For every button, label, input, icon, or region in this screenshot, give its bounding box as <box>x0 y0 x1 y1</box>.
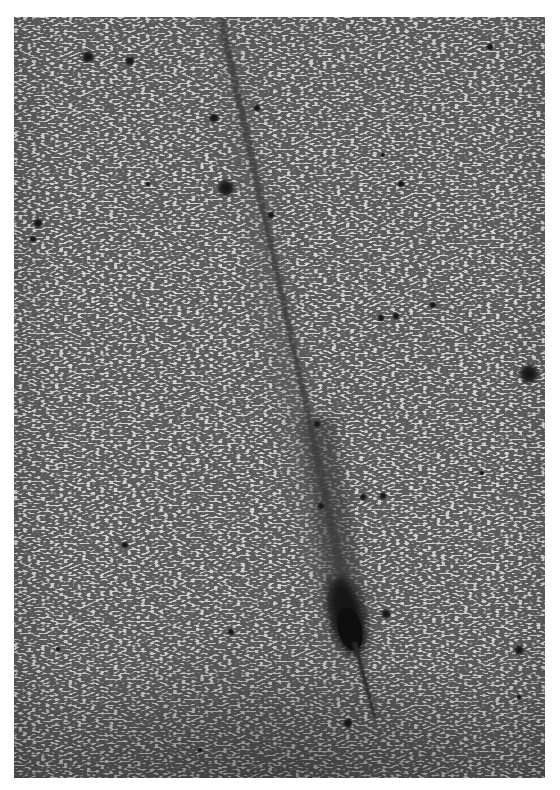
star <box>197 747 203 753</box>
star <box>121 541 129 549</box>
star <box>516 694 522 700</box>
star <box>227 628 235 636</box>
star <box>379 492 387 500</box>
star <box>392 312 400 320</box>
star <box>216 178 236 198</box>
star <box>518 363 540 385</box>
star <box>342 717 353 728</box>
star <box>513 644 524 655</box>
comet-photograph <box>14 17 545 778</box>
star <box>313 420 321 428</box>
star <box>486 43 494 51</box>
star <box>253 104 261 112</box>
star <box>208 112 219 123</box>
star <box>397 180 405 188</box>
star <box>124 55 135 66</box>
star <box>317 502 325 510</box>
star <box>377 314 385 322</box>
star <box>479 470 485 476</box>
star <box>267 211 275 219</box>
star <box>429 301 437 309</box>
star <box>145 181 151 187</box>
star <box>359 493 367 501</box>
star <box>380 608 391 619</box>
star <box>32 217 43 228</box>
star <box>380 152 386 158</box>
star-field <box>14 17 545 778</box>
star <box>55 646 61 652</box>
star <box>29 235 37 243</box>
star <box>81 50 95 64</box>
